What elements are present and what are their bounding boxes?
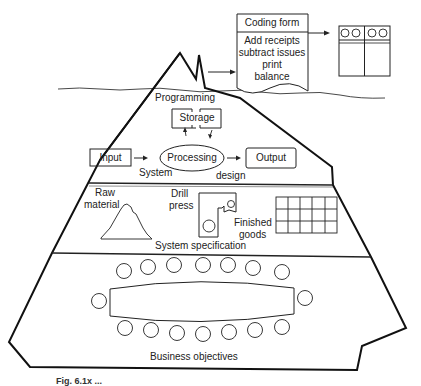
finished-goods-label: goods	[239, 230, 266, 240]
coding-form-line: balance	[234, 72, 310, 82]
divider-spec-business	[52, 253, 371, 257]
drill-press-label: Drill	[171, 189, 188, 199]
system-design-label-right: design	[216, 171, 245, 181]
system-specification-label: System specification	[155, 241, 246, 251]
seat-left-end	[92, 294, 107, 309]
coding-form-title: Coding form	[234, 18, 310, 28]
input-label: Input	[90, 153, 131, 163]
conference-table	[110, 282, 294, 322]
printout-sheet-icon	[339, 26, 390, 76]
output-label: Output	[246, 153, 296, 163]
programming-label: Programming	[155, 93, 215, 103]
figure-caption: Fig. 6.1x ...	[56, 376, 102, 386]
drill-press-label: press	[169, 201, 193, 211]
coding-form-line: print	[234, 60, 310, 70]
raw-material-label: material	[84, 200, 120, 210]
seats-bottom	[118, 320, 290, 342]
system-design-label-left: System	[139, 168, 172, 178]
business-objectives-label: Business objectives	[150, 352, 238, 362]
storage-label: Storage	[172, 113, 222, 123]
finished-goods-label: Finished	[234, 218, 272, 228]
divider-design-spec	[89, 183, 333, 185]
processing-label: Processing	[160, 153, 224, 163]
seat-right-end	[298, 291, 313, 306]
coding-form-line: Add receipts	[234, 36, 310, 46]
drill-press-icon	[199, 193, 236, 237]
coding-form-line: subtract issues	[234, 48, 310, 58]
finished-goods-grid-icon	[276, 197, 337, 233]
seats-top	[117, 258, 290, 280]
raw-material-label: Raw	[95, 188, 115, 198]
